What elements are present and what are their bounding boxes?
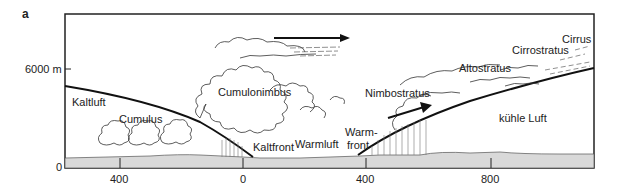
warm-front-precipitation [372, 120, 426, 155]
label-cirrus: Cirrus [562, 34, 591, 45]
warm-front-line [358, 68, 594, 155]
label-warmfront-line1: Warm- [345, 127, 378, 138]
upper-wind-arrow [274, 34, 350, 42]
label-warmfront-line2: front [347, 140, 369, 151]
ground-band [65, 152, 594, 168]
label-cumulus: Cumulus [119, 114, 162, 125]
x-tick-800: 800 [481, 174, 499, 185]
x-tick-400-left: 400 [110, 174, 128, 185]
panel-label: a [22, 8, 29, 20]
label-cirrostratus: Cirrostratus [512, 45, 569, 56]
label-altostratus: Altostratus [459, 63, 511, 74]
label-kuehle-luft: kühle Luft [499, 113, 547, 124]
y-tick-0: 0 [56, 162, 62, 173]
x-tick-0: 0 [240, 174, 246, 185]
x-tick-400-right: 400 [356, 174, 374, 185]
label-cumulonimbus: Cumulonimbus [218, 87, 291, 98]
label-nimbostratus: Nimbostratus [365, 88, 430, 99]
label-warmluft: Warmluft [295, 139, 339, 150]
label-kaltfront: Kaltfront [253, 142, 294, 153]
warm-air-arrow [388, 102, 432, 118]
y-tick-6000: 6000 m [25, 64, 62, 75]
front-diagram [0, 0, 619, 190]
label-kaltluft: Kaltluft [72, 97, 106, 108]
